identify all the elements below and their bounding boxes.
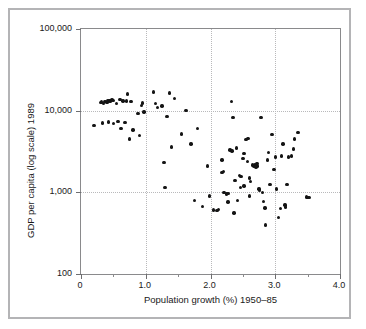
figure-scatter-plot: GDP per capita (log scale) 1989 Populati… xyxy=(0,0,366,329)
gridline-vertical xyxy=(211,29,212,274)
x-axis-title: Population growth (%) 1950–85 xyxy=(80,294,341,305)
scatter-point xyxy=(235,146,238,149)
scatter-point xyxy=(165,115,168,118)
scatter-point xyxy=(220,158,223,161)
scatter-point xyxy=(196,127,199,130)
scatter-point xyxy=(112,122,115,125)
x-axis-minor-tick xyxy=(113,274,114,277)
scatter-point xyxy=(259,116,262,119)
scatter-point xyxy=(170,145,173,148)
scatter-point xyxy=(168,91,171,94)
scatter-point xyxy=(249,180,252,183)
scatter-point xyxy=(270,133,273,136)
x-axis-minor-tick xyxy=(243,274,244,277)
scatter-point xyxy=(239,175,242,178)
scatter-point xyxy=(267,151,270,154)
scatter-point xyxy=(293,137,296,140)
scatter-point xyxy=(128,137,131,140)
scatter-point xyxy=(296,131,299,134)
plot-area xyxy=(80,28,341,275)
x-axis-tick-label: 4.0 xyxy=(319,280,359,290)
scatter-point xyxy=(189,142,192,145)
x-axis-minor-tick xyxy=(178,274,179,277)
scatter-point xyxy=(107,120,110,123)
x-axis-tick xyxy=(340,274,341,279)
scatter-point xyxy=(115,102,118,105)
y-axis-tick-label: 100,000 xyxy=(39,23,72,33)
scatter-point xyxy=(274,155,277,158)
scatter-point xyxy=(116,120,119,123)
scatter-point xyxy=(226,200,229,203)
y-axis-title: GDP per capita (log scale) 1989 xyxy=(13,70,27,240)
scatter-point xyxy=(160,104,163,107)
scatter-point xyxy=(262,200,265,203)
scatter-point xyxy=(280,154,283,157)
x-axis-tick xyxy=(81,274,82,279)
scatter-point xyxy=(268,183,271,186)
scatter-point xyxy=(272,168,275,171)
scatter-point xyxy=(232,211,235,214)
scatter-point xyxy=(264,223,267,226)
x-axis-minor-tick xyxy=(308,274,309,277)
scatter-point xyxy=(142,110,145,113)
scatter-point xyxy=(230,100,233,103)
scatter-point xyxy=(220,171,223,174)
y-axis-tick xyxy=(76,29,81,30)
x-axis-tick-label: 0 xyxy=(60,280,100,290)
scatter-point xyxy=(277,216,280,219)
x-axis-tick-label: 2.0 xyxy=(190,280,230,290)
scatter-point xyxy=(162,161,165,164)
scatter-point xyxy=(126,92,129,95)
scatter-point xyxy=(201,205,204,208)
x-axis-tick-label: 3.0 xyxy=(254,280,294,290)
scatter-point xyxy=(208,194,211,197)
y-axis-tick-label: 10,000 xyxy=(44,105,72,115)
scatter-point xyxy=(138,134,141,137)
y-axis-tick-label: 100 xyxy=(57,268,72,278)
scatter-point xyxy=(236,199,239,202)
scatter-point xyxy=(231,116,234,119)
x-axis-tick xyxy=(211,274,212,279)
scatter-point xyxy=(242,184,245,187)
y-axis-title-text: GDP per capita (log scale) 1989 xyxy=(25,103,36,238)
scatter-point xyxy=(292,147,295,150)
scatter-point xyxy=(285,183,288,186)
y-axis-tick xyxy=(76,192,81,193)
scatter-point xyxy=(263,206,266,209)
gridline-vertical xyxy=(146,29,147,274)
x-axis-tick xyxy=(275,274,276,279)
scatter-point xyxy=(239,186,242,189)
scatter-point xyxy=(193,199,196,202)
scatter-point xyxy=(154,102,157,105)
scatter-point xyxy=(241,157,244,160)
gridline-vertical xyxy=(275,29,276,274)
scatter-point xyxy=(131,128,134,131)
x-axis-tick-label: 1.0 xyxy=(125,280,165,290)
scatter-point xyxy=(256,164,259,167)
y-axis-tick-label: 1,000 xyxy=(49,186,72,196)
scatter-point xyxy=(119,127,122,130)
scatter-point xyxy=(129,100,132,103)
scatter-point xyxy=(217,208,220,211)
scatter-point xyxy=(141,101,144,104)
scatter-point xyxy=(125,99,128,102)
scatter-point xyxy=(101,121,104,124)
y-axis-tick xyxy=(76,111,81,112)
scatter-point xyxy=(152,90,155,93)
scatter-point xyxy=(279,207,282,210)
scatter-point xyxy=(261,191,264,194)
scatter-point xyxy=(266,158,269,161)
scatter-point xyxy=(226,192,229,195)
scatter-point xyxy=(230,149,233,152)
x-axis-tick xyxy=(146,274,147,279)
scatter-point xyxy=(173,97,176,100)
scatter-point xyxy=(123,121,126,124)
scatter-point xyxy=(275,187,278,190)
scatter-point xyxy=(92,124,95,127)
scatter-point xyxy=(233,179,236,182)
scatter-point xyxy=(163,186,166,189)
scatter-point xyxy=(246,137,249,140)
scatter-point xyxy=(307,196,310,199)
scatter-point xyxy=(248,194,251,197)
scatter-point xyxy=(290,154,293,157)
